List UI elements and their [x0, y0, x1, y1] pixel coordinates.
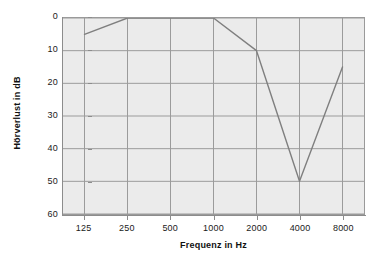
plot-svg — [63, 18, 364, 214]
y-tick-mark — [88, 50, 92, 51]
x-tick-label: 1000 — [191, 223, 237, 233]
audiogram-chart: 0102030405060 Hörverlust in dB 125250500… — [0, 0, 386, 262]
x-tick-mark — [257, 215, 258, 220]
x-tick-label: 2000 — [234, 223, 280, 233]
x-tick-mark — [170, 215, 171, 220]
y-tick-label: 40 — [34, 144, 58, 153]
y-tick-label: 10 — [34, 45, 58, 54]
y-tick-mark — [88, 17, 92, 18]
y-tick-label: 50 — [34, 177, 58, 186]
y-tick-mark — [88, 83, 92, 84]
y-axis-ticks: 0102030405060 — [30, 0, 58, 262]
x-tick-mark — [343, 215, 344, 220]
x-tick-mark — [127, 215, 128, 220]
x-tick-label: 125 — [61, 223, 107, 233]
y-tick-label: 30 — [34, 111, 58, 120]
y-tick-label: 60 — [34, 210, 58, 219]
x-tick-mark — [300, 215, 301, 220]
y-tick-mark — [88, 116, 92, 117]
y-tick-mark — [88, 149, 92, 150]
x-tick-label: 8000 — [320, 223, 366, 233]
x-axis-title: Frequenz in Hz — [62, 240, 365, 250]
y-tick-mark — [88, 182, 92, 183]
x-tick-label: 250 — [104, 223, 150, 233]
plot-area — [62, 17, 365, 215]
x-tick-mark — [84, 215, 85, 220]
y-axis-line — [62, 17, 63, 215]
y-tick-label: 0 — [34, 12, 58, 21]
x-tick-label: 4000 — [277, 223, 323, 233]
y-axis-title: Hörverlust in dB — [12, 48, 22, 178]
x-tick-label: 500 — [147, 223, 193, 233]
y-tick-label: 20 — [34, 78, 58, 87]
x-tick-mark — [214, 215, 215, 220]
